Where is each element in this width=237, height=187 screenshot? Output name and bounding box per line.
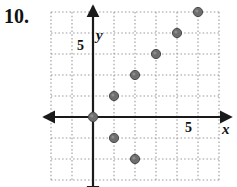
x-axis-label: x xyxy=(222,121,230,138)
data-point xyxy=(172,28,181,37)
data-point-highlight xyxy=(174,30,177,33)
data-point-highlight xyxy=(195,9,198,12)
data-point xyxy=(109,133,118,142)
data-point xyxy=(130,154,139,163)
data-point xyxy=(109,91,118,100)
plot-svg xyxy=(0,0,237,187)
data-point-highlight xyxy=(153,51,156,54)
data-point xyxy=(151,49,160,58)
y-axis-label: y xyxy=(96,27,103,44)
data-point-highlight xyxy=(90,114,93,117)
data-point xyxy=(130,70,139,79)
data-point-highlight xyxy=(132,156,135,159)
data-points xyxy=(88,7,202,163)
y-axis-tick-5: 5 xyxy=(77,38,84,54)
data-point-highlight xyxy=(132,72,135,75)
data-point xyxy=(193,7,202,16)
figure-root: 10. y x 5 5 xyxy=(0,0,237,187)
data-point xyxy=(88,112,97,121)
x-axis-tick-5: 5 xyxy=(185,120,192,136)
coordinate-plane xyxy=(0,0,237,187)
data-point-highlight xyxy=(111,93,114,96)
data-point-highlight xyxy=(111,135,114,138)
